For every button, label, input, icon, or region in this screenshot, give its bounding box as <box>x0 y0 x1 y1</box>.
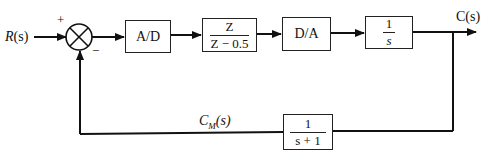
controller-transfer-function: Z Z − 0.5 <box>210 20 248 50</box>
input-label: R(s) <box>5 30 28 44</box>
output-label: C(s) <box>456 10 480 24</box>
plus-sign: + <box>57 13 64 26</box>
sensor-transfer-function: 1 s + 1 <box>290 117 326 147</box>
plant-transfer-function: 1 s <box>383 17 395 47</box>
feedback-signal-label: CM(s) <box>199 114 231 131</box>
plant-block: 1 s <box>365 16 413 49</box>
da-converter-block: D/A <box>282 17 331 51</box>
ad-converter-block: A/D <box>125 20 171 53</box>
feedback-sensor-block: 1 s + 1 <box>283 114 333 150</box>
digital-controller-block: Z Z − 0.5 <box>202 18 257 52</box>
minus-sign: − <box>92 44 99 57</box>
